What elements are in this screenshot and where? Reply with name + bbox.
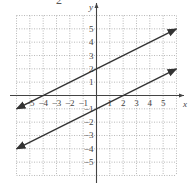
x-axis-label: x bbox=[182, 99, 187, 109]
y-axis-arrow-icon bbox=[95, 3, 99, 8]
y-tick-label: 1 bbox=[89, 77, 94, 87]
y-tick-label: −2 bbox=[84, 117, 94, 127]
y-tick-label: 5 bbox=[89, 24, 94, 34]
y-tick-label: −3 bbox=[84, 130, 94, 140]
x-tick-label: −3 bbox=[52, 98, 62, 108]
y-axis-label: y bbox=[88, 2, 93, 12]
x-axis-arrow-icon bbox=[179, 94, 184, 98]
x-tick-label: 4 bbox=[148, 98, 153, 108]
x-tick-label: −2 bbox=[65, 98, 75, 108]
y-tick-label: 3 bbox=[89, 51, 94, 61]
y-tick-label: −5 bbox=[84, 157, 94, 167]
coordinate-plane: xy −5−4−3−2−112345−5−4−3−2−112345 bbox=[0, 0, 192, 183]
x-tick-label: 3 bbox=[134, 98, 139, 108]
x-tick-label: −4 bbox=[38, 98, 48, 108]
y-tick-label: 4 bbox=[89, 37, 94, 47]
y-tick-label: −4 bbox=[84, 144, 94, 154]
x-tick-label: 2 bbox=[121, 98, 126, 108]
x-tick-label: 5 bbox=[161, 98, 166, 108]
